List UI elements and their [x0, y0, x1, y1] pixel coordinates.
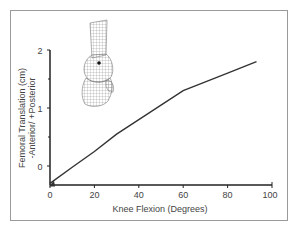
x-tick-label: 80 [223, 190, 233, 200]
y-tick-label: 0 [37, 162, 42, 172]
data-series-line [50, 62, 257, 184]
knee-model-illustration [82, 20, 114, 106]
y-axis: 2 1 0 [37, 46, 50, 185]
y-axis-title-line2: -Anterior/ +Posterior [27, 78, 37, 159]
x-axis-title: Knee Flexion (Degrees) [112, 204, 207, 214]
x-tick-label: 0 [47, 190, 52, 200]
x-axis: 0 20 40 60 80 100 [47, 182, 277, 200]
x-tick-label: 100 [262, 190, 277, 200]
chart-svg: 2 1 0 0 20 40 60 80 100 Knee Flexion (De… [0, 0, 299, 227]
y-axis-title-line1: Femoral Translation (cm) [17, 68, 27, 168]
y-tick-label: 2 [37, 46, 42, 56]
x-tick-label: 40 [134, 190, 144, 200]
x-tick-label: 20 [89, 190, 99, 200]
y-tick-label: 1 [37, 104, 42, 114]
x-tick-label: 60 [178, 190, 188, 200]
